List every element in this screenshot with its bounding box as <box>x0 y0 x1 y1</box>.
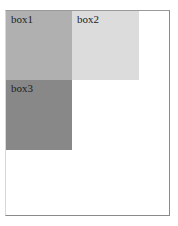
box2-label: box2 <box>77 13 99 25</box>
box2: box2 <box>72 11 139 80</box>
box3: box3 <box>6 80 72 150</box>
box1: box1 <box>6 11 72 80</box>
layout-container: box1 box2 box3 <box>5 10 170 216</box>
box3-label: box3 <box>11 82 33 94</box>
box1-label: box1 <box>11 13 33 25</box>
